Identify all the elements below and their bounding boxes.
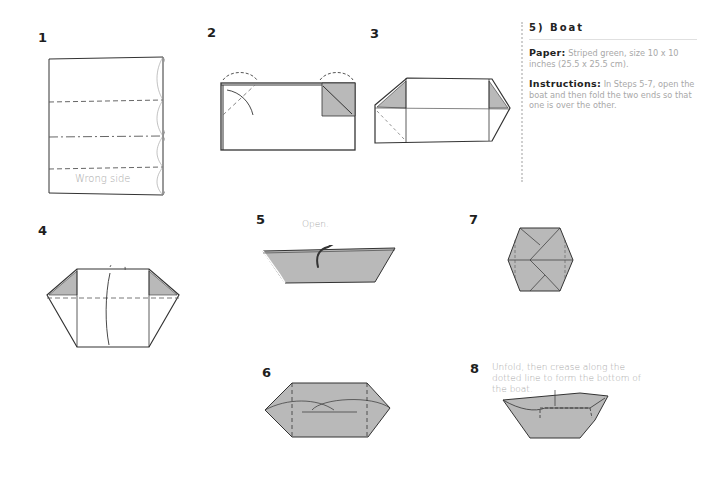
step-number-4: 4 [38, 223, 47, 238]
project-info-panel: 5) Boat Paper: Striped green, size 10 x … [521, 22, 697, 182]
step-number-8: 8 [470, 361, 479, 376]
step-5-diagram [260, 245, 400, 290]
paper-info: Paper: Striped green, size 10 x 10 inche… [529, 48, 697, 69]
step-3-diagram [372, 73, 512, 148]
project-title: 5) Boat [529, 22, 697, 40]
step-number-1: 1 [38, 30, 47, 45]
step-number-5: 5 [256, 212, 265, 227]
step-8-diagram [500, 390, 610, 445]
step-number-6: 6 [262, 365, 271, 380]
step-4-diagram [45, 265, 195, 355]
step-number-7: 7 [469, 212, 478, 227]
step-2-diagram [215, 70, 360, 155]
step-7-diagram [505, 225, 575, 295]
instructions-label: Instructions: [529, 78, 601, 89]
step-1-caption: Wrong side [75, 173, 130, 184]
step-6-diagram [262, 380, 392, 440]
step-number-2: 2 [207, 25, 216, 40]
paper-label: Paper: [529, 47, 566, 58]
step-5-caption: Open. [302, 219, 329, 229]
step-number-3: 3 [370, 26, 379, 41]
instructions-info: Instructions: In Steps 5-7, open the boa… [529, 79, 697, 111]
